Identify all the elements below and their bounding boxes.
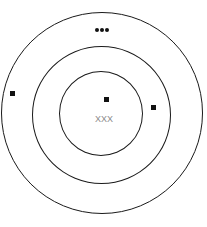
top-dots-marker: [95, 28, 109, 32]
dot-icon: [95, 28, 99, 32]
right-square-marker: [151, 105, 156, 110]
left-square-marker: [10, 91, 15, 96]
dot-icon: [100, 28, 104, 32]
center-square-marker: [104, 97, 109, 102]
center-label: XXX: [95, 115, 113, 124]
diagram-canvas: XXX: [0, 0, 207, 227]
dot-icon: [105, 28, 109, 32]
